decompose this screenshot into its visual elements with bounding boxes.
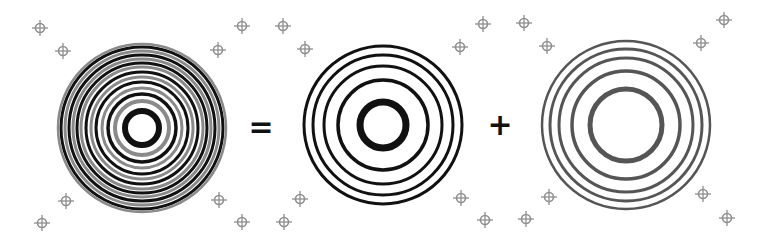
plus-sign: + [487, 110, 512, 140]
equals-sign: = [248, 112, 273, 142]
ring-superposition-figure [0, 0, 763, 250]
